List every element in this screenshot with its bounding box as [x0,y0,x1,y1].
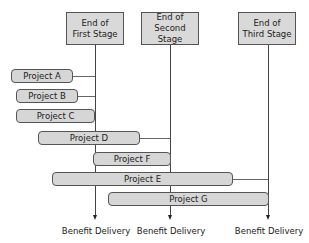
stage-label-line2: Second Stage [154,23,185,44]
project-label: Project B [28,91,66,101]
stage-box-first: End ofFirst Stage [66,12,124,45]
stage-box-third: End ofThird Stage [238,12,296,45]
project-label: Project A [23,71,61,81]
stage-label-line1: End of [81,18,108,28]
project-label: Project E [124,174,161,184]
project-bar-a: Project A [11,69,73,83]
arrow-down-icon [168,215,172,220]
connector-project-e [233,179,268,180]
project-bar-e: Project E [52,172,233,186]
project-bar-g: Project G [108,192,269,206]
stage-label-line1: End of [253,18,280,28]
stage-box-second: End ofSecond Stage [141,12,199,45]
project-bar-d: Project D [38,131,140,145]
project-label: Project C [37,111,75,121]
project-bar-f: Project F [93,152,171,166]
project-bar-b: Project B [16,89,78,103]
connector-project-d-line [140,138,170,139]
benefit-delivery-label-second: Benefit Delivery [137,226,205,236]
connector-project-b [78,96,95,97]
arrow-down-icon [266,215,270,220]
connector-project-a [73,76,95,77]
project-label: Project F [114,154,151,164]
stage-label-line2: Third Stage [243,29,292,39]
stage-label-line1: End of [156,12,183,22]
benefit-delivery-label-first: Benefit Delivery [62,226,130,236]
benefit-delivery-label-third: Benefit Delivery [235,226,303,236]
stage-line-third [268,45,269,217]
project-bar-c: Project C [16,109,95,123]
project-label: Project G [169,194,207,204]
stage-label-line2: First Stage [72,29,117,39]
arrow-down-icon [93,215,97,220]
project-label: Project D [70,133,108,143]
